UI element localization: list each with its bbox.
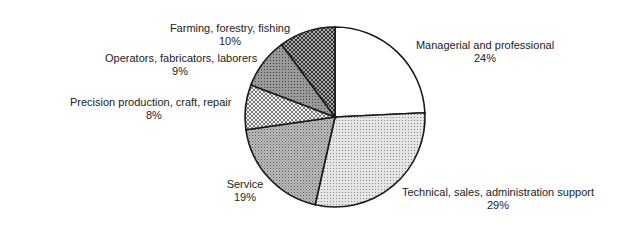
slice-label-managerial: Managerial and professional 24% [400,39,570,65]
slice-label-farming: Farming, forestry, fishing 10% [160,22,300,48]
slice-label-precision: Precision production, craft, repair 8% [70,96,240,122]
slice-label-service: Service 19% [215,178,275,204]
slice-label-operators: Operators, fabricators, laborers 9% [105,52,255,78]
slice-label-technical: Technical, sales, administration support… [393,186,603,212]
